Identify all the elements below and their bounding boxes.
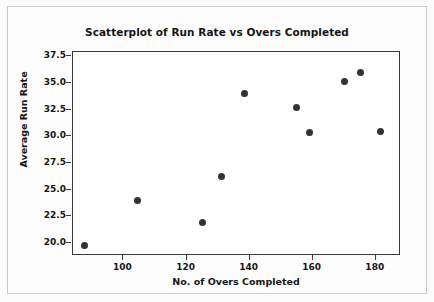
y-axis-tick-label: 25.0 (44, 184, 66, 194)
plot-area (73, 52, 399, 254)
data-point (134, 197, 141, 204)
y-axis-tick-label: 37.5 (44, 50, 66, 60)
y-axis-tick-mark (66, 109, 71, 110)
y-axis-tick-label: 22.5 (44, 210, 66, 220)
x-axis-tick-mark (122, 255, 123, 260)
y-axis-label-container: Average Run Rate (12, 50, 31, 190)
x-axis-tick-mark (186, 255, 187, 260)
scatterplot-figure: Scatterplot of Run Rate vs Overs Complet… (0, 0, 434, 302)
y-axis-tick-mark (66, 242, 71, 243)
data-point (241, 90, 248, 97)
y-axis-tick-mark (66, 162, 71, 163)
x-axis-label: No. of Overs Completed (72, 276, 400, 287)
data-point (293, 104, 300, 111)
y-axis-tick-label: 32.5 (44, 104, 66, 114)
x-axis-tick-label: 100 (113, 262, 132, 272)
x-axis-tick-label: 140 (239, 262, 258, 272)
data-point (81, 242, 88, 249)
y-axis-tick-label: 35.0 (44, 77, 66, 87)
y-axis-tick-label: 30.0 (44, 130, 66, 140)
y-axis-tick-mark (66, 55, 71, 56)
data-point (306, 129, 313, 136)
x-axis-tick-label: 120 (176, 262, 195, 272)
x-axis-tick-mark (249, 255, 250, 260)
data-point (199, 219, 206, 226)
x-axis-tick-mark (312, 255, 313, 260)
x-axis-tick-labels: 100120140160180 (0, 262, 434, 276)
y-axis-tick-label: 20.0 (44, 237, 66, 247)
y-axis-tick-mark (66, 82, 71, 83)
x-axis-tick-label: 160 (302, 262, 321, 272)
data-point (341, 78, 348, 85)
data-point (218, 173, 225, 180)
x-axis-tick-label: 180 (365, 262, 384, 272)
y-axis-tick-labels: 20.022.525.027.530.032.535.037.5 (34, 0, 66, 302)
y-axis-label: Average Run Rate (18, 71, 29, 167)
x-axis-tick-mark (375, 255, 376, 260)
y-axis-tick-mark (66, 215, 71, 216)
y-axis-tick-mark (66, 189, 71, 190)
y-axis-tick-label: 27.5 (44, 157, 66, 167)
y-axis-tick-mark (66, 135, 71, 136)
plot-frame (72, 51, 400, 255)
data-point (357, 69, 364, 76)
data-point (377, 128, 384, 135)
